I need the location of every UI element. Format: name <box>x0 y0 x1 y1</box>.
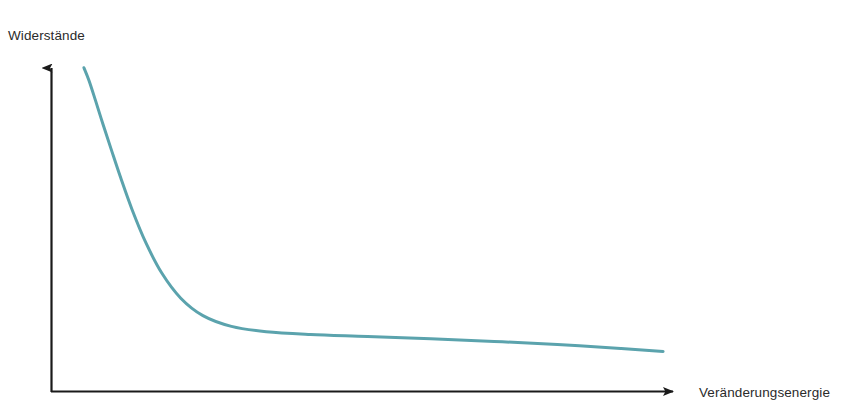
chart-figure: Widerstände Veränderungsenergie <box>0 0 857 419</box>
x-axis-label: Veränderungsenergie <box>699 385 830 401</box>
y-axis-label: Widerstände <box>8 28 85 44</box>
resistance-curve-path <box>84 68 663 352</box>
chart-canvas <box>0 0 857 419</box>
